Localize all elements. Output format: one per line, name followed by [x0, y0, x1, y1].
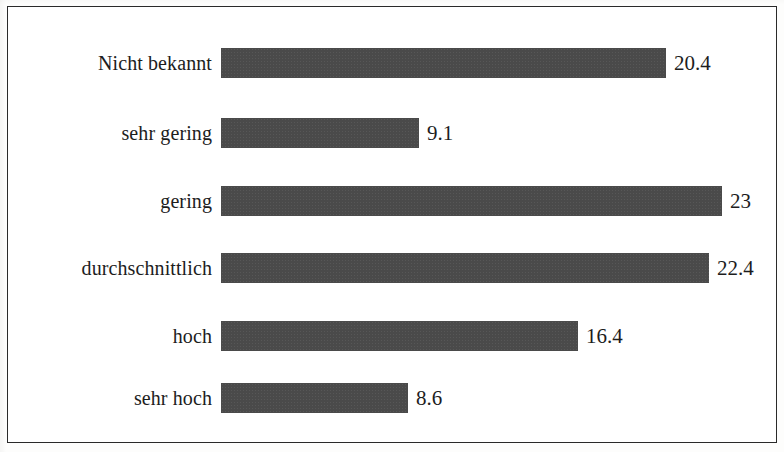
bar-hoch [221, 321, 578, 351]
bar-value-label: 20.4 [674, 53, 711, 74]
bar-sehr-gering [221, 118, 419, 148]
bar-track: 20.4 [221, 48, 778, 78]
bar-value-label: 23 [730, 191, 751, 212]
bar-value-label: 9.1 [427, 123, 453, 144]
bar-row: durchschnittlich 22.4 [8, 253, 778, 283]
bar-durchschnittlich [221, 253, 709, 283]
bar-row: Nicht bekannt 20.4 [8, 48, 778, 78]
bar-track: 22.4 [221, 253, 778, 283]
category-label: hoch [173, 326, 212, 346]
bar-row: hoch 16.4 [8, 321, 778, 351]
bar-track: 16.4 [221, 321, 778, 351]
category-label: sehr hoch [134, 388, 212, 408]
bar-track: 23 [221, 186, 778, 216]
category-label: durchschnittlich [82, 258, 212, 278]
category-label: gering [160, 191, 212, 211]
bar-gering [221, 186, 722, 216]
bar-value-label: 16.4 [586, 326, 623, 347]
category-label: sehr gering [121, 123, 212, 143]
bar-track: 9.1 [221, 118, 778, 148]
bar-nicht-bekannt [221, 48, 666, 78]
bar-row: gering 23 [8, 186, 778, 216]
bar-value-label: 22.4 [717, 258, 754, 279]
bar-row: sehr hoch 8.6 [8, 383, 778, 413]
bar-value-label: 8.6 [416, 388, 442, 409]
chart-frame-border: Nicht bekannt 20.4 sehr gering 9.1 gerin… [7, 6, 777, 443]
plot-area: Nicht bekannt 20.4 sehr gering 9.1 gerin… [8, 7, 778, 444]
bar-chart-figure: Nicht bekannt 20.4 sehr gering 9.1 gerin… [0, 0, 784, 452]
bar-sehr-hoch [221, 383, 408, 413]
bar-row: sehr gering 9.1 [8, 118, 778, 148]
bar-track: 8.6 [221, 383, 778, 413]
category-label: Nicht bekannt [98, 53, 212, 73]
